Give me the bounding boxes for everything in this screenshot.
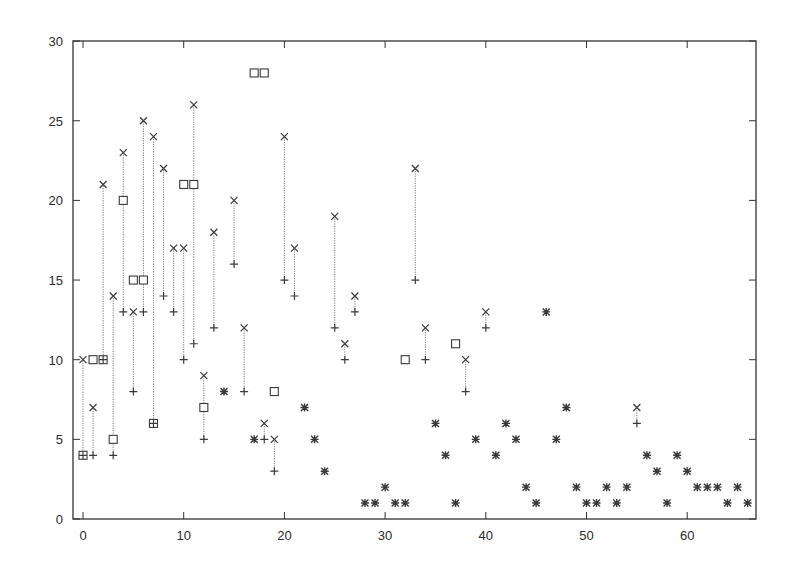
y-tick-label: 30 <box>49 34 63 49</box>
cross-marker <box>80 356 87 363</box>
star-marker <box>492 451 500 459</box>
plus-marker <box>462 388 470 396</box>
plus-marker <box>290 292 298 300</box>
plus-marker <box>200 435 208 443</box>
cross-marker <box>190 101 197 108</box>
star-marker <box>220 388 228 396</box>
square-marker <box>260 69 268 77</box>
y-tick-label: 10 <box>49 353 63 368</box>
plus-marker <box>170 308 178 316</box>
y-tick-label: 15 <box>49 273 63 288</box>
star-marker <box>250 435 258 443</box>
plus-marker <box>210 324 218 332</box>
cross-marker <box>170 245 177 252</box>
cross-marker <box>90 404 97 411</box>
plus-marker <box>160 292 168 300</box>
x-tick-label: 10 <box>176 528 190 543</box>
plus-marker <box>341 356 349 364</box>
star-marker <box>683 467 691 475</box>
x-tick-label: 50 <box>579 528 593 543</box>
cross-marker <box>241 324 248 331</box>
cross-marker <box>633 404 640 411</box>
cross-marker <box>281 133 288 140</box>
plus-marker <box>190 340 198 348</box>
plus-marker <box>119 308 127 316</box>
square-marker <box>452 340 460 348</box>
star-marker <box>572 483 580 491</box>
plus-marker <box>411 276 419 284</box>
plus-marker <box>129 388 137 396</box>
square-marker <box>270 388 278 396</box>
plus-marker <box>260 435 268 443</box>
star-marker <box>562 403 570 411</box>
y-tick-label: 5 <box>56 432 63 447</box>
star-marker <box>371 499 379 507</box>
scatter-chart: 0102030405060 051015202530 <box>0 0 798 574</box>
plus-marker <box>280 276 288 284</box>
star-marker <box>744 499 752 507</box>
cross-marker <box>231 197 238 204</box>
star-marker <box>653 467 661 475</box>
plus-marker <box>331 324 339 332</box>
plus-marker <box>270 467 278 475</box>
square-marker <box>129 276 137 284</box>
star-marker <box>431 419 439 427</box>
cross-marker <box>341 340 348 347</box>
y-tick-label: 20 <box>49 193 63 208</box>
cross-marker <box>100 181 107 188</box>
star-marker <box>301 403 309 411</box>
square-marker <box>200 403 208 411</box>
cross-marker <box>351 292 358 299</box>
star-marker <box>693 483 701 491</box>
star-marker <box>734 483 742 491</box>
star-marker <box>512 435 520 443</box>
star-marker <box>643 451 651 459</box>
star-marker <box>472 435 480 443</box>
star-marker <box>583 499 591 507</box>
cross-marker <box>140 117 147 124</box>
plus-marker <box>482 324 490 332</box>
star-marker <box>713 483 721 491</box>
range-lines <box>83 105 637 471</box>
star-marker <box>723 499 731 507</box>
star-marker <box>663 499 671 507</box>
square-marker <box>190 180 198 188</box>
y-tick-label: 25 <box>49 114 63 129</box>
data-markers <box>79 69 752 507</box>
x-tick-label: 20 <box>277 528 291 543</box>
star-marker <box>613 499 621 507</box>
plus-marker <box>89 451 97 459</box>
star-marker <box>623 483 631 491</box>
cross-marker <box>200 372 207 379</box>
plus-marker <box>421 356 429 364</box>
star-marker <box>603 483 611 491</box>
x-tick-label: 30 <box>378 528 392 543</box>
cross-marker <box>482 308 489 315</box>
star-marker <box>381 483 389 491</box>
plus-marker <box>240 388 248 396</box>
square-marker <box>89 356 97 364</box>
plus-marker <box>180 356 188 364</box>
x-tick-label: 40 <box>479 528 493 543</box>
cross-marker <box>210 229 217 236</box>
star-marker <box>522 483 530 491</box>
cross-marker <box>291 245 298 252</box>
square-marker <box>109 435 117 443</box>
star-marker <box>532 499 540 507</box>
star-marker <box>703 483 711 491</box>
star-marker <box>542 308 550 316</box>
star-marker <box>673 451 681 459</box>
plus-marker <box>139 308 147 316</box>
x-axis: 0102030405060 <box>79 41 694 543</box>
square-marker <box>180 180 188 188</box>
star-marker <box>321 467 329 475</box>
star-marker <box>442 451 450 459</box>
square-marker <box>139 276 147 284</box>
plus-marker <box>633 419 641 427</box>
star-marker <box>401 499 409 507</box>
square-marker <box>250 69 258 77</box>
star-marker <box>361 499 369 507</box>
cross-marker <box>261 420 268 427</box>
star-marker <box>502 419 510 427</box>
plus-marker <box>351 308 359 316</box>
